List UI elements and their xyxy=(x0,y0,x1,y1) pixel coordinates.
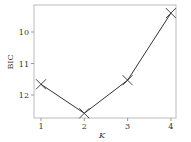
bic-chart: 101112 1234 K BIC xyxy=(0,0,191,142)
bic-line xyxy=(41,13,171,113)
plot-frame xyxy=(34,5,176,118)
x-tick-label: 2 xyxy=(82,122,87,131)
x-tick-label: 3 xyxy=(125,122,130,131)
x-axis-label: K xyxy=(98,131,106,140)
y-tick-label: 11 xyxy=(19,60,29,69)
x-axis-ticks: 1234 xyxy=(38,118,173,131)
x-tick-label: 1 xyxy=(38,122,43,131)
y-tick-label: 12 xyxy=(19,91,29,100)
y-tick-label: 10 xyxy=(19,28,29,37)
y-axis-ticks: 101112 xyxy=(19,28,34,100)
data-markers xyxy=(36,8,176,118)
x-tick-label: 4 xyxy=(168,122,173,131)
y-axis-label: BIC xyxy=(6,54,15,69)
